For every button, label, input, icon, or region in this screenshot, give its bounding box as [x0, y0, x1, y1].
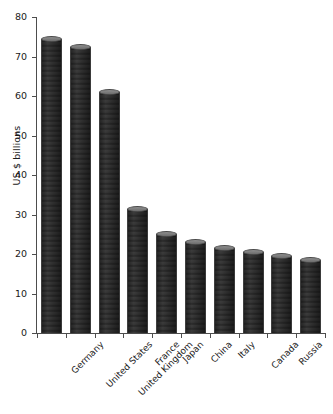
y-tick-label: 60: [1, 91, 27, 101]
y-tick-label: 0: [1, 328, 27, 338]
y-tick: [32, 96, 37, 97]
y-tick-label: 20: [1, 249, 27, 259]
y-tick-label: 30: [1, 210, 27, 220]
x-tick: [95, 333, 96, 338]
bar-top-cap: [41, 36, 62, 42]
y-tick-label: 40: [1, 170, 27, 180]
bar: [214, 248, 235, 333]
y-tick-label: 50: [1, 131, 27, 141]
x-tick: [239, 333, 240, 338]
x-tick: [181, 333, 182, 338]
bar: [70, 47, 91, 333]
bar: [99, 92, 120, 333]
bar-top-cap: [271, 253, 292, 259]
x-tick: [152, 333, 153, 338]
bar: [41, 39, 62, 333]
bar: [185, 242, 206, 333]
y-tick: [32, 17, 37, 18]
y-tick-label: 80: [1, 12, 27, 22]
bar-chart: US $ billions 01020304050607080 GermanyU…: [0, 0, 333, 414]
bar-top-cap: [214, 245, 235, 251]
x-tick: [296, 333, 297, 338]
y-tick: [32, 175, 37, 176]
bar-top-cap: [300, 257, 321, 263]
bar: [243, 252, 264, 333]
bar-top-cap: [127, 206, 148, 212]
x-tick-label: China: [210, 340, 235, 365]
x-tick: [37, 333, 38, 338]
bar: [271, 256, 292, 333]
y-tick: [32, 215, 37, 216]
bar-top-cap: [243, 249, 264, 255]
x-tick: [325, 333, 326, 338]
bar: [127, 209, 148, 333]
bar-top-cap: [185, 239, 206, 245]
y-tick: [32, 294, 37, 295]
x-tick-label: Russia: [297, 340, 324, 367]
bar: [300, 260, 321, 333]
y-axis-title: US $ billions: [11, 106, 22, 206]
x-tick: [66, 333, 67, 338]
y-tick: [32, 57, 37, 58]
x-tick: [267, 333, 268, 338]
bar-top-cap: [156, 231, 177, 237]
x-tick: [210, 333, 211, 338]
x-tick: [123, 333, 124, 338]
x-tick-label: Germany: [71, 340, 107, 376]
plot-area: 01020304050607080: [37, 17, 325, 333]
y-tick-label: 70: [1, 52, 27, 62]
y-tick-label: 10: [1, 289, 27, 299]
x-tick-label: Canada: [270, 340, 301, 371]
bar: [156, 234, 177, 333]
x-tick-label: Italy: [237, 340, 257, 360]
bar-top-cap: [70, 44, 91, 50]
y-tick: [32, 254, 37, 255]
bar-top-cap: [99, 89, 120, 95]
y-tick: [32, 136, 37, 137]
